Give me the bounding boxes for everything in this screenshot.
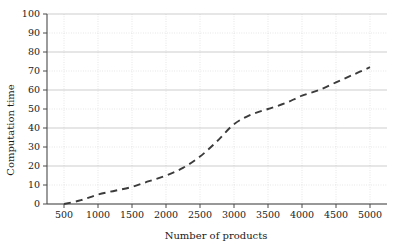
x-tick-label-5000: 5000 <box>358 209 382 220</box>
grid-minor-layer <box>47 14 387 204</box>
y-tick-label-30: 30 <box>28 141 40 152</box>
x-tick-label-3000: 3000 <box>222 209 246 220</box>
x-tick-label-3500: 3500 <box>256 209 280 220</box>
y-axis-title: Computation time <box>5 84 16 176</box>
x-axis-title: Number of products <box>165 230 268 241</box>
y-tick-label-0: 0 <box>34 198 40 209</box>
x-tick-label-1000: 1000 <box>86 209 110 220</box>
y-tick-label-60: 60 <box>28 84 40 95</box>
y-tick-labels: 0102030405060708090100 <box>22 8 40 209</box>
y-tick-label-40: 40 <box>28 122 40 133</box>
x-tick-label-2000: 2000 <box>154 209 178 220</box>
computation-time-chart: 0102030405060708090100 50010001500200025… <box>0 0 400 244</box>
y-tick-label-80: 80 <box>28 46 40 57</box>
x-tick-labels: 500100015002000250030003500400045005000 <box>55 209 382 220</box>
axis-layer <box>43 14 387 208</box>
y-tick-label-10: 10 <box>28 179 40 190</box>
y-tick-label-90: 90 <box>28 27 40 38</box>
x-tick-label-500: 500 <box>55 209 73 220</box>
y-tick-label-50: 50 <box>28 103 40 114</box>
x-tick-label-2500: 2500 <box>188 209 212 220</box>
y-tick-label-20: 20 <box>28 160 40 171</box>
data-curve-computation-time <box>64 67 370 204</box>
y-tick-label-100: 100 <box>22 8 40 19</box>
x-tick-label-1500: 1500 <box>120 209 144 220</box>
x-tick-label-4000: 4000 <box>290 209 314 220</box>
x-tick-label-4500: 4500 <box>324 209 348 220</box>
chart-canvas: 0102030405060708090100 50010001500200025… <box>0 0 400 244</box>
y-tick-label-70: 70 <box>28 65 40 76</box>
